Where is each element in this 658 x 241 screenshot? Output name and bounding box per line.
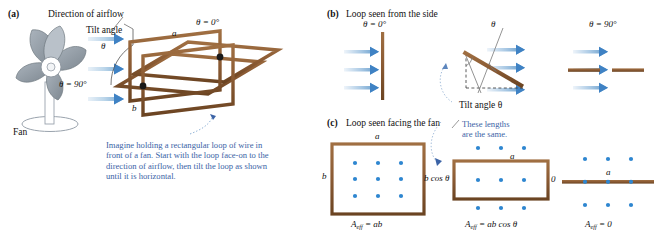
panel-a-note-line-2: front of a fan. Start with the loop face…	[106, 150, 318, 160]
c3-area-subscript: eff	[591, 223, 597, 230]
airflow-label: Direction of airflow	[48, 10, 124, 20]
airflow-arrow	[573, 47, 608, 57]
pivot-dot-bottom	[140, 83, 147, 90]
panel-a-side-a: a	[172, 29, 177, 38]
panel-b-heading: Loop seen from the side	[346, 10, 438, 20]
panel-c-tag: (c)	[327, 119, 338, 129]
c2-area-subscript: eff	[471, 223, 477, 230]
panel-a-note: Imagine holding a rectangular loop of wi…	[106, 140, 318, 182]
c2-area-formula: Aeff = ab cos θ	[465, 220, 517, 229]
rotation-callout-arrow	[442, 63, 448, 69]
airflow-arrow	[344, 47, 379, 57]
b-label-face-on: θ = 0°	[363, 20, 386, 29]
airflow-arrow	[487, 45, 525, 55]
loop-edge-horizontal-left	[568, 68, 600, 71]
loop-edge-horizontal-right	[612, 68, 644, 71]
c1-area-formula: Aeff = ab	[351, 220, 382, 229]
panel-b-group	[344, 28, 644, 102]
c3-area-formula: Aeff = 0	[585, 220, 612, 229]
airflow-arrow	[88, 94, 124, 105]
c3-top-label: a	[606, 168, 611, 177]
c1-area-equation: = ab	[365, 219, 382, 229]
c2-left-label: b cos θ	[424, 174, 449, 183]
pivot-dot-top	[217, 54, 224, 61]
panel-a-side-b: b	[132, 104, 137, 113]
tilt-label-leader	[124, 24, 133, 29]
lengths-callout-line-1: These lengths	[462, 119, 510, 129]
c2-area-equation: = ab cos θ	[479, 219, 517, 229]
lengths-callout-line-2: are the same.	[462, 129, 510, 139]
c2-area-symbol: A	[465, 219, 471, 229]
panel-a-note-line-4: until it is horizontal.	[106, 171, 318, 181]
airflow-arrow	[344, 83, 379, 93]
c-view-edge-on	[562, 157, 654, 207]
c3-area-symbol: A	[585, 219, 591, 229]
c-view-face-on	[332, 144, 424, 214]
lengths-callout-arrow	[435, 158, 442, 166]
c1-area-symbol: A	[351, 219, 357, 229]
c1-top-label: a	[375, 132, 380, 141]
b-tilt-caption: Tilt angle θ	[459, 101, 502, 111]
b-label-edge-on: θ = 90°	[589, 20, 617, 29]
b-view-face-on	[344, 32, 384, 100]
b-view-edge-on	[568, 47, 644, 93]
tilt-angle-label: Tilt angle	[86, 26, 122, 36]
c3-left-label: 0	[551, 175, 556, 184]
panel-c-heading: Loop seen facing the fan	[346, 119, 440, 129]
note-callout-line	[190, 118, 212, 134]
c1-left-label: b	[322, 172, 327, 181]
panel-a-group	[14, 17, 278, 134]
c1-area-subscript: eff	[357, 223, 363, 230]
c-view-tilted	[454, 146, 548, 210]
b-label-tilted: θ	[491, 20, 495, 29]
panel-b-tag: (b)	[327, 10, 339, 20]
airflow-arrows-a	[88, 34, 124, 105]
lengths-callout: These lengths are the same.	[462, 119, 510, 139]
panel-a-theta-zero: θ = 0°	[196, 18, 219, 27]
b-view-tilted	[440, 28, 525, 102]
airflow-arrow	[573, 83, 608, 93]
panel-a-tag: (a)	[8, 10, 19, 20]
lengths-callout-tick	[452, 120, 459, 128]
airflow-arrows-b1	[344, 47, 379, 93]
panel-a-theta-ninety: θ = 90°	[59, 80, 87, 89]
airflow-arrow	[344, 65, 379, 75]
fan-label: Fan	[13, 128, 27, 138]
panel-a-note-line-1: Imagine holding a rectangular loop of wi…	[106, 140, 318, 150]
note-callout-arrow	[210, 114, 216, 120]
loop-edge-vertical	[381, 32, 384, 100]
c3-area-equation: = 0	[599, 219, 612, 229]
panel-a-theta-symbol: θ	[101, 42, 105, 51]
c2-top-label: a	[510, 152, 515, 161]
panel-a-note-line-3: direction of airflow, then tilt the loop…	[106, 161, 318, 171]
rotation-callout-line	[440, 69, 452, 102]
